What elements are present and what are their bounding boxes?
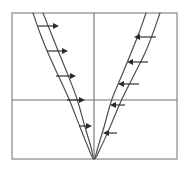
figure-background <box>0 0 190 170</box>
figure-canvas <box>0 0 190 170</box>
parabola-figure <box>0 0 190 170</box>
